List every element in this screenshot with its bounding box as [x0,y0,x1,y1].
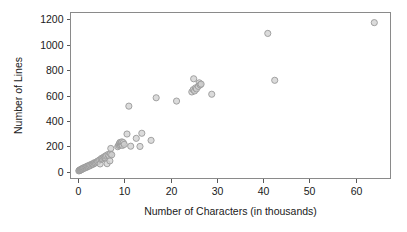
x-tick-label: 0 [76,185,82,197]
scatter-plot-figure: 0102030405060 020040060080010001200 Numb… [0,0,407,232]
data-point [121,141,127,147]
y-axis-title: Number of Lines [12,57,24,134]
y-tick-label: 600 [46,90,64,102]
data-point [107,158,113,164]
data-point [139,130,145,136]
x-tick-label: 50 [304,185,316,197]
data-point [148,137,154,143]
chart-canvas: 0102030405060 020040060080010001200 Numb… [0,0,407,232]
data-point [153,95,159,101]
y-tick-label: 400 [46,115,64,127]
x-tick-label: 20 [166,185,178,197]
x-tick-label: 10 [119,185,131,197]
y-tick-label: 200 [46,140,64,152]
x-tick-label: 60 [351,185,363,197]
x-axis-title: Number of Characters (in thousands) [144,205,317,217]
y-tick-label: 0 [58,166,64,178]
data-point [265,30,271,36]
data-point [272,77,278,83]
data-point [109,152,115,158]
data-point [173,98,179,104]
data-point [209,91,215,97]
data-point [198,81,204,87]
data-point [124,131,130,137]
data-point [133,135,139,141]
x-tick-label: 40 [258,185,270,197]
data-point [191,76,197,82]
data-point [137,143,143,149]
data-point [371,20,377,26]
x-tick-label: 30 [212,185,224,197]
data-point [126,103,132,109]
y-tick-label: 800 [46,64,64,76]
y-tick-label: 1200 [40,13,64,25]
data-point [128,143,134,149]
data-point [108,145,114,151]
y-tick-label: 1000 [40,39,64,51]
